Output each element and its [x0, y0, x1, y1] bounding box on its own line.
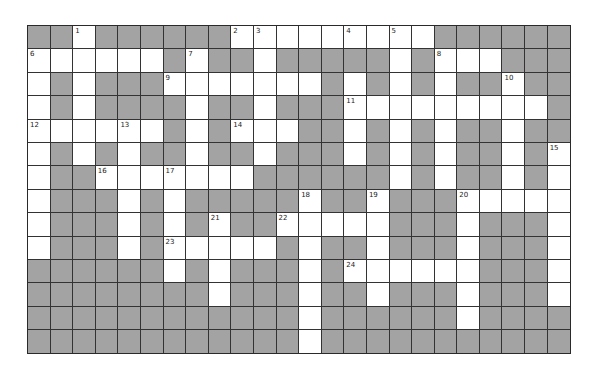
crossword-cell[interactable]: [502, 120, 525, 143]
crossword-cell[interactable]: [73, 96, 96, 119]
crossword-cell[interactable]: 18: [299, 190, 322, 213]
crossword-cell[interactable]: [367, 96, 390, 119]
crossword-cell[interactable]: 10: [502, 73, 525, 96]
crossword-cell[interactable]: [51, 49, 74, 72]
crossword-cell[interactable]: [344, 143, 367, 166]
crossword-cell[interactable]: [344, 73, 367, 96]
crossword-cell[interactable]: [277, 120, 300, 143]
crossword-cell[interactable]: [254, 49, 277, 72]
crossword-cell[interactable]: [118, 190, 141, 213]
crossword-cell[interactable]: [254, 237, 277, 260]
crossword-cell[interactable]: [28, 237, 51, 260]
crossword-cell[interactable]: [231, 237, 254, 260]
crossword-cell[interactable]: [480, 96, 503, 119]
crossword-cell[interactable]: [209, 166, 232, 189]
crossword-cell[interactable]: [457, 283, 480, 306]
crossword-cell[interactable]: [28, 166, 51, 189]
crossword-cell[interactable]: 15: [548, 143, 571, 166]
crossword-cell[interactable]: [209, 237, 232, 260]
crossword-cell[interactable]: 12: [28, 120, 51, 143]
crossword-cell[interactable]: [209, 260, 232, 283]
crossword-cell[interactable]: [118, 213, 141, 236]
crossword-cell[interactable]: [73, 120, 96, 143]
crossword-cell[interactable]: [435, 73, 458, 96]
crossword-cell[interactable]: [141, 166, 164, 189]
crossword-cell[interactable]: 22: [277, 213, 300, 236]
crossword-cell[interactable]: [457, 96, 480, 119]
crossword-cell[interactable]: [525, 96, 548, 119]
crossword-cell[interactable]: [435, 96, 458, 119]
crossword-cell[interactable]: [344, 213, 367, 236]
crossword-cell[interactable]: [209, 283, 232, 306]
crossword-cell[interactable]: [186, 73, 209, 96]
crossword-cell[interactable]: [277, 26, 300, 49]
crossword-cell[interactable]: [164, 260, 187, 283]
crossword-cell[interactable]: [457, 237, 480, 260]
crossword-cell[interactable]: 6: [28, 49, 51, 72]
crossword-cell[interactable]: [548, 283, 571, 306]
crossword-cell[interactable]: 7: [186, 49, 209, 72]
crossword-cell[interactable]: [73, 143, 96, 166]
crossword-cell[interactable]: [28, 96, 51, 119]
crossword-cell[interactable]: [299, 73, 322, 96]
crossword-cell[interactable]: [277, 73, 300, 96]
crossword-cell[interactable]: [525, 190, 548, 213]
crossword-cell[interactable]: [299, 307, 322, 330]
crossword-cell[interactable]: [502, 143, 525, 166]
crossword-cell[interactable]: 17: [164, 166, 187, 189]
crossword-cell[interactable]: [186, 237, 209, 260]
crossword-cell[interactable]: [548, 213, 571, 236]
crossword-cell[interactable]: [141, 49, 164, 72]
crossword-cell[interactable]: [28, 73, 51, 96]
crossword-cell[interactable]: [390, 166, 413, 189]
crossword-cell[interactable]: [457, 307, 480, 330]
crossword-cell[interactable]: [96, 120, 119, 143]
crossword-cell[interactable]: 11: [344, 96, 367, 119]
crossword-cell[interactable]: [299, 213, 322, 236]
crossword-cell[interactable]: [480, 49, 503, 72]
crossword-cell[interactable]: [390, 49, 413, 72]
crossword-cell[interactable]: [254, 73, 277, 96]
crossword-cell[interactable]: [118, 49, 141, 72]
crossword-cell[interactable]: [73, 49, 96, 72]
crossword-cell[interactable]: [118, 237, 141, 260]
crossword-cell[interactable]: [412, 26, 435, 49]
crossword-cell[interactable]: 20: [457, 190, 480, 213]
crossword-cell[interactable]: [299, 330, 322, 353]
crossword-cell[interactable]: [186, 120, 209, 143]
crossword-cell[interactable]: [118, 166, 141, 189]
crossword-cell[interactable]: [390, 120, 413, 143]
crossword-cell[interactable]: [548, 237, 571, 260]
crossword-cell[interactable]: [412, 260, 435, 283]
crossword-cell[interactable]: [367, 26, 390, 49]
crossword-cell[interactable]: [435, 260, 458, 283]
crossword-cell[interactable]: [299, 26, 322, 49]
crossword-cell[interactable]: [367, 283, 390, 306]
crossword-cell[interactable]: 21: [209, 213, 232, 236]
crossword-cell[interactable]: [28, 213, 51, 236]
crossword-cell[interactable]: 14: [231, 120, 254, 143]
crossword-cell[interactable]: [367, 260, 390, 283]
crossword-cell[interactable]: 9: [164, 73, 187, 96]
crossword-cell[interactable]: [390, 143, 413, 166]
crossword-cell[interactable]: [367, 237, 390, 260]
crossword-cell[interactable]: [344, 120, 367, 143]
crossword-cell[interactable]: [367, 213, 390, 236]
crossword-cell[interactable]: [548, 190, 571, 213]
crossword-cell[interactable]: 2: [231, 26, 254, 49]
crossword-cell[interactable]: 19: [367, 190, 390, 213]
crossword-cell[interactable]: [231, 73, 254, 96]
crossword-cell[interactable]: [435, 166, 458, 189]
crossword-cell[interactable]: [118, 143, 141, 166]
crossword-cell[interactable]: [186, 143, 209, 166]
crossword-cell[interactable]: [502, 96, 525, 119]
crossword-cell[interactable]: [299, 260, 322, 283]
crossword-cell[interactable]: 8: [435, 49, 458, 72]
crossword-cell[interactable]: [502, 166, 525, 189]
crossword-cell[interactable]: [254, 143, 277, 166]
crossword-cell[interactable]: [231, 166, 254, 189]
crossword-cell[interactable]: [457, 260, 480, 283]
crossword-cell[interactable]: [186, 166, 209, 189]
crossword-cell[interactable]: [28, 190, 51, 213]
crossword-cell[interactable]: [322, 213, 345, 236]
